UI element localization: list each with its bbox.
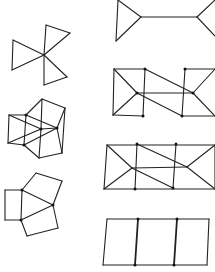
graph-edge <box>207 219 209 265</box>
graph-edge-thick <box>135 219 138 265</box>
graph-edge <box>21 220 27 236</box>
graph-barbell <box>116 0 215 41</box>
graph-edge <box>187 145 215 167</box>
graph-edge <box>21 190 22 220</box>
graph-edge <box>113 69 114 115</box>
graph-edge <box>57 128 62 153</box>
graph-edge <box>8 143 24 145</box>
graph-vertex <box>184 68 187 71</box>
graph-edge <box>12 40 13 70</box>
graph-edge <box>103 219 107 265</box>
graph-vertex <box>136 92 139 95</box>
graph-edge <box>113 115 143 116</box>
graph-edge <box>21 205 53 220</box>
graph-vertex <box>25 114 28 117</box>
graph-edge <box>39 153 62 158</box>
graph-edge <box>116 0 118 41</box>
graph-edge <box>145 69 193 93</box>
graph-edge <box>8 115 9 143</box>
graph-edge <box>24 115 26 145</box>
graph-edge <box>104 145 107 189</box>
graph-edge <box>46 25 70 33</box>
graph-vertex <box>137 218 140 221</box>
graph-edge <box>44 55 67 77</box>
graph-edge <box>44 33 70 55</box>
graph-edge <box>113 93 137 115</box>
graph-edge <box>36 173 62 181</box>
graph-vertex <box>40 128 43 131</box>
graph-vertex <box>175 143 178 146</box>
graph-edge <box>53 205 58 228</box>
graph-vertex <box>136 143 139 146</box>
graph-edge <box>26 99 42 115</box>
graph-vertex <box>21 189 24 192</box>
graph-vertex <box>142 115 145 118</box>
graph-vertex <box>172 187 175 190</box>
graph-vertex <box>20 219 23 222</box>
graph-vertex <box>56 127 59 130</box>
graph-edge <box>27 228 58 236</box>
graph-pinwheel <box>12 25 70 85</box>
graph-vertex <box>23 144 26 147</box>
graph-vertex <box>192 92 195 95</box>
graph-edge <box>104 168 132 189</box>
graph-vertex <box>181 115 184 118</box>
graph-edge <box>39 129 41 158</box>
graph-edge-thick <box>174 219 177 265</box>
graph-edge <box>193 69 215 93</box>
graph-edge <box>53 181 62 205</box>
graph-vertex <box>173 264 176 267</box>
graph-vertex <box>52 204 55 207</box>
graph-edge <box>135 144 137 189</box>
graph-edge <box>197 17 215 36</box>
graph-edge <box>173 144 176 188</box>
graph-edge <box>44 25 46 55</box>
graph-vertex <box>144 68 147 71</box>
graph-ladder <box>103 218 209 267</box>
graph-edge <box>41 99 42 129</box>
graph-edge <box>132 168 173 188</box>
graph-edge <box>197 0 215 17</box>
graph-three-pentagons <box>5 173 62 236</box>
graph-edge <box>118 0 141 17</box>
graph-edge <box>42 99 65 108</box>
graph-edge <box>187 167 215 189</box>
graph-edge <box>132 167 187 168</box>
graph-edge <box>22 190 53 205</box>
graph-edge <box>193 93 215 116</box>
graph-z-graph <box>113 68 215 118</box>
graph-vertex <box>134 264 137 267</box>
graph-diagram-canvas <box>0 0 215 272</box>
graph-edge <box>44 77 67 85</box>
graph-vertex <box>134 188 137 191</box>
graph-edge <box>24 145 39 158</box>
graph-edge <box>137 144 187 167</box>
graph-folded-cube <box>8 99 65 158</box>
graph-edge <box>22 173 36 190</box>
graph-closed-z-graph <box>104 143 215 191</box>
graph-edge <box>107 145 132 168</box>
graph-edge <box>114 69 137 93</box>
graph-vertex <box>176 218 179 221</box>
graph-edge <box>13 40 44 55</box>
graph-edge <box>12 55 44 70</box>
graph-edge <box>116 17 141 41</box>
